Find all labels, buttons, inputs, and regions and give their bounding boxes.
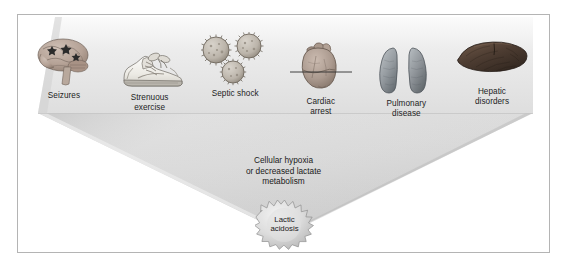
- cause-item-cardiac-arrest: Cardiac arrest: [279, 40, 363, 116]
- lactic-acidosis-figure: Seizures: [0, 0, 567, 272]
- cause-item-exercise: Strenuous exercise: [108, 36, 192, 112]
- cause-item-pulmonary-disease: Pulmonary disease: [364, 42, 448, 118]
- lactic-acidosis-label: Lactic acidosis: [255, 215, 314, 234]
- cause-label-septic-shock: Septic shock: [212, 89, 259, 99]
- cause-label-hepatic-disorders: Hepatic disorders: [475, 87, 509, 106]
- lungs-icon: [375, 42, 437, 96]
- cause-item-seizures: Seizures: [22, 34, 106, 101]
- heart-flatline-icon: [290, 40, 352, 94]
- causes-row: Seizures: [22, 20, 534, 106]
- cause-label-exercise: Strenuous exercise: [131, 93, 169, 112]
- lactic-acidosis-badge: Lactic acidosis: [255, 199, 314, 254]
- cause-label-pulmonary-disease: Pulmonary disease: [387, 99, 427, 118]
- running-shoe-icon: [116, 36, 184, 90]
- liver-icon: [454, 30, 530, 84]
- cause-item-hepatic-disorders: Hepatic disorders: [450, 30, 534, 106]
- cause-label-seizures: Seizures: [48, 91, 80, 101]
- cause-item-septic-shock: Septic shock: [193, 32, 277, 99]
- bacteria-icon: [201, 32, 269, 86]
- cause-label-cardiac-arrest: Cardiac arrest: [307, 97, 336, 116]
- mechanism-caption: Cellular hypoxia or decreased lactate me…: [212, 155, 355, 187]
- brain-icon: [33, 34, 95, 88]
